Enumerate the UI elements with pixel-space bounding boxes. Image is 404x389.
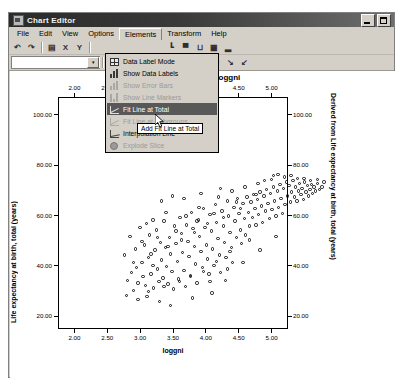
scatter-point[interactable] [136,298,139,301]
maximize-button[interactable] [377,14,391,27]
scatter-point[interactable] [283,175,286,178]
scatter-point[interactable] [128,235,131,238]
fitline2-icon[interactable]: ↘ [224,56,237,69]
scatter-point[interactable] [239,228,242,231]
scatter-point[interactable] [224,279,227,282]
scatter-point[interactable] [243,217,246,220]
scatter-point[interactable] [195,219,198,222]
y-axis-icon[interactable]: Y [73,41,86,54]
scatter-point[interactable] [149,272,152,275]
scatter-point[interactable] [193,245,196,248]
scatter-point[interactable] [248,224,251,227]
elements-dropdown-menu[interactable]: Data Label Mode Show Data Labels Show Er… [105,53,219,153]
scatter-point[interactable] [199,250,202,253]
scatter-point[interactable] [180,232,183,235]
brackets-icon[interactable]: ⊔ [193,41,206,54]
scatter-point[interactable] [143,243,146,246]
scatter-point[interactable] [261,221,264,224]
scatter-point[interactable] [168,236,171,239]
undo-icon[interactable]: ↶ [11,41,24,54]
scatter-point[interactable] [219,271,222,274]
scatter-point[interactable] [166,282,169,285]
scatter-point[interactable] [254,223,257,226]
scatter-point[interactable] [180,238,183,241]
scatter-point[interactable] [230,189,233,192]
scatter-point[interactable] [171,194,174,197]
scatter-point[interactable] [173,224,176,227]
redo-icon[interactable]: ↷ [25,41,38,54]
scatter-point[interactable] [162,285,165,288]
scatter-point[interactable] [223,241,226,244]
scatter-point[interactable] [309,179,312,182]
properties-icon[interactable]: ▤ [45,41,58,54]
scatter-point[interactable] [235,200,238,203]
scatter-point[interactable] [189,275,192,278]
scatter-point[interactable] [182,197,185,200]
scatter-point[interactable] [215,221,218,224]
scatter-point[interactable] [269,192,272,195]
scatter-point[interactable] [198,235,201,238]
scatter-point[interactable] [159,241,162,244]
scatter-point[interactable] [218,253,221,256]
scatter-point[interactable] [156,236,159,239]
scatter-point[interactable] [258,248,261,251]
scatter-point[interactable] [166,245,169,248]
scatter-point[interactable] [291,179,294,182]
scatter-point[interactable] [226,199,229,202]
scatter-point[interactable] [240,242,243,245]
scatter-point[interactable] [205,243,208,246]
scatter-point[interactable] [314,189,317,192]
scatter-point[interactable] [208,213,211,216]
scatter-point[interactable] [197,206,200,209]
scatter-point[interactable] [156,267,159,270]
scatter-point[interactable] [216,237,219,240]
scatter-point[interactable] [210,229,213,232]
menu-file[interactable]: File [12,28,34,39]
scatter-point[interactable] [274,235,277,238]
scatter-point[interactable] [214,203,217,206]
scatter-point[interactable] [212,212,215,215]
scatter-point[interactable] [191,296,194,299]
scatter-point[interactable] [257,213,260,216]
scatter-point[interactable] [217,195,220,198]
scatter-point[interactable] [155,228,158,231]
scatter-point[interactable] [162,219,165,222]
scatter-point[interactable] [222,224,225,227]
scatter-point[interactable] [191,227,194,230]
scatter-point[interactable] [278,183,281,186]
scatter-point[interactable] [262,194,265,197]
bar-chart-icon[interactable]: ▀ [179,41,192,54]
grid-table-icon[interactable]: ▦ [207,41,220,54]
x-axis-icon[interactable]: X [59,41,72,54]
scatter-point[interactable] [185,223,188,226]
scatter-point[interactable] [187,255,190,258]
scatter-point[interactable] [160,199,163,202]
scatter-point[interactable] [307,194,310,197]
scatter-point[interactable] [256,182,259,185]
scatter-point[interactable] [265,188,268,191]
scatter-point[interactable] [140,261,143,264]
scatter-point[interactable] [140,240,143,243]
scatter-point[interactable] [190,211,193,214]
scatter-point[interactable] [123,253,126,256]
scatter-point[interactable] [157,280,160,283]
scatter-point[interactable] [289,200,292,203]
scatter-point[interactable] [289,174,292,177]
scatter-point[interactable] [125,294,128,297]
scatter-point[interactable] [243,185,246,188]
scatter-point[interactable] [316,182,319,185]
scatter-point[interactable] [266,202,269,205]
scatter-point[interactable] [170,270,173,273]
scatter-point[interactable] [322,180,325,183]
scatter-point[interactable] [270,208,273,211]
scatter-point[interactable] [258,190,261,193]
scatter-point[interactable] [145,222,148,225]
scatter-point[interactable] [231,261,234,264]
scatter-point[interactable] [222,216,225,219]
scatter-point[interactable] [220,209,223,212]
scatter-point[interactable] [235,236,238,239]
scatter-point[interactable] [158,300,161,303]
scatter-point[interactable] [272,174,275,177]
scatter-point[interactable] [136,281,139,284]
scatter-point[interactable] [151,264,154,267]
